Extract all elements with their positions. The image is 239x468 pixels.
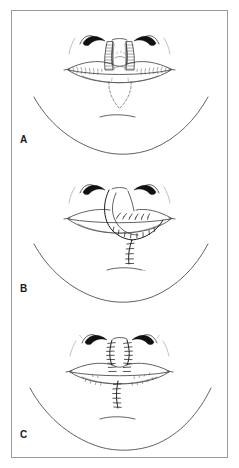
panel-a-illustration (12, 11, 227, 160)
panel-b: B (12, 160, 227, 309)
panel-label-a: A (20, 135, 27, 145)
panel-c: C (12, 308, 227, 457)
panel-label-b: B (20, 284, 27, 294)
panel-c-illustration (12, 308, 227, 457)
suture-line-lip-body (108, 367, 130, 372)
panel-b-illustration (12, 160, 227, 309)
suture-line-flap-upper (117, 213, 150, 220)
panel-a: A (12, 11, 227, 160)
dashed-incision-v (109, 82, 131, 108)
panel-label-c: C (20, 430, 27, 440)
figure-frame: A (11, 10, 228, 458)
